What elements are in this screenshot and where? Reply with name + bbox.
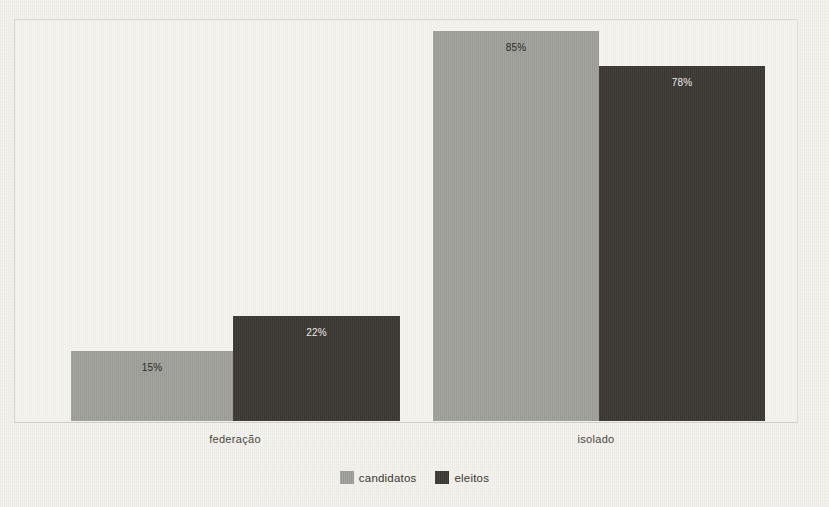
legend-label-candidatos: candidatos — [359, 472, 417, 484]
bar-value-label: 22% — [233, 327, 400, 338]
bar-isolado-eleitos[interactable]: 78% — [599, 66, 765, 421]
category-label-isolado: isolado — [526, 433, 666, 445]
chart-frame: 15% 22% 85% 78% — [14, 19, 798, 423]
bar-value-label: 85% — [433, 42, 599, 53]
bar-value-label: 78% — [599, 77, 765, 88]
bar-federacao-candidatos[interactable]: 15% — [71, 351, 233, 421]
bar-federacao-eleitos[interactable]: 22% — [233, 316, 400, 421]
category-label-federacao: federação — [165, 433, 305, 445]
bar-isolado-candidatos[interactable]: 85% — [433, 31, 599, 421]
legend-swatch-candidatos-icon — [340, 471, 354, 484]
legend-item-candidatos[interactable]: candidatos — [340, 471, 417, 484]
page-background: 15% 22% 85% 78% federação isolado candid… — [0, 0, 829, 507]
chart-legend: candidatos eleitos — [0, 471, 829, 484]
legend-swatch-eleitos-icon — [435, 471, 449, 484]
bar-value-label: 15% — [71, 362, 233, 373]
plot-area: 15% 22% 85% 78% — [15, 20, 797, 422]
legend-label-eleitos: eleitos — [454, 472, 489, 484]
legend-item-eleitos[interactable]: eleitos — [435, 471, 489, 484]
